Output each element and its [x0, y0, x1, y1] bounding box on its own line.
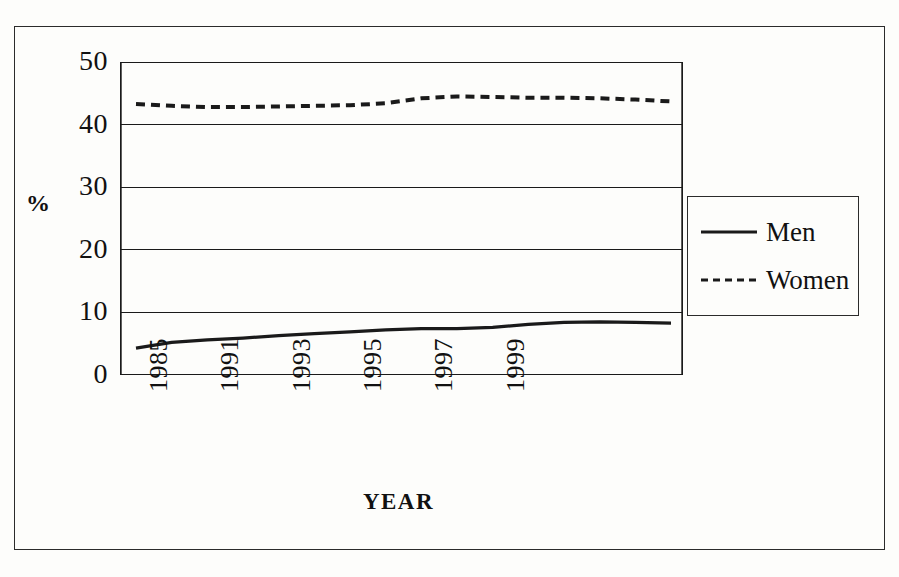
- legend-line-solid-icon: [700, 225, 758, 239]
- y-tick-label-0: 0: [52, 360, 108, 388]
- x-tick-label-1995: 1995: [360, 282, 386, 392]
- legend-item-women: Women: [700, 263, 849, 297]
- legend: Men Women: [687, 196, 859, 316]
- series-line-women: [136, 96, 671, 107]
- y-tick-label-10: 10: [52, 297, 108, 325]
- y-tick-label-20: 20: [52, 235, 108, 263]
- legend-item-men: Men: [700, 215, 816, 249]
- x-tick-label-1999: 1999: [503, 282, 529, 392]
- figure-page: % 01020304050 YEAR Men Women 19851991199…: [0, 0, 899, 577]
- x-tick-label-1985: 1985: [146, 282, 172, 392]
- y-tick-label-30: 30: [52, 172, 108, 200]
- y-tick-label-50: 50: [52, 47, 108, 75]
- legend-line-dashed-icon: [700, 273, 758, 287]
- legend-label-women: Women: [766, 267, 849, 294]
- y-tick-label-40: 40: [52, 110, 108, 138]
- plot-canvas: [120, 62, 683, 375]
- legend-label-men: Men: [766, 219, 816, 246]
- x-tick-label-1993: 1993: [289, 282, 315, 392]
- x-axis-title: YEAR: [0, 489, 797, 515]
- x-tick-label-1997: 1997: [431, 282, 457, 392]
- plot-area: [120, 62, 683, 375]
- x-tick-label-1991: 1991: [217, 282, 243, 392]
